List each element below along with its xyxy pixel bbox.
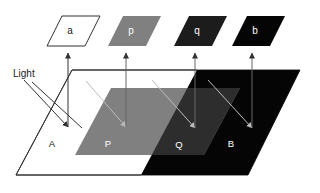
patch-a-label: a — [67, 25, 73, 36]
region-label-A: A — [49, 138, 56, 149]
region-label-P: P — [105, 138, 111, 149]
patch-q-label: q — [194, 25, 200, 36]
patch-b: b — [232, 16, 285, 46]
region-label-Q: Q — [175, 139, 182, 150]
patch-a-shape — [47, 16, 100, 46]
figure-container: a p q b — [0, 0, 320, 193]
lightness-illusion-diagram: a p q b — [0, 0, 320, 193]
patch-q: q — [174, 16, 227, 46]
patch-p-label: p — [128, 25, 134, 36]
patch-b-shape — [232, 16, 285, 46]
patch-row: a p q b — [47, 16, 285, 46]
patch-a: a — [47, 16, 100, 46]
patch-p: p — [108, 16, 161, 46]
region-label-B: B — [228, 138, 234, 149]
ground-plane — [16, 70, 300, 175]
light-label: Light — [13, 68, 35, 79]
patch-p-shape — [108, 16, 161, 46]
patch-b-label: b — [252, 25, 258, 36]
patch-q-shape — [174, 16, 227, 46]
